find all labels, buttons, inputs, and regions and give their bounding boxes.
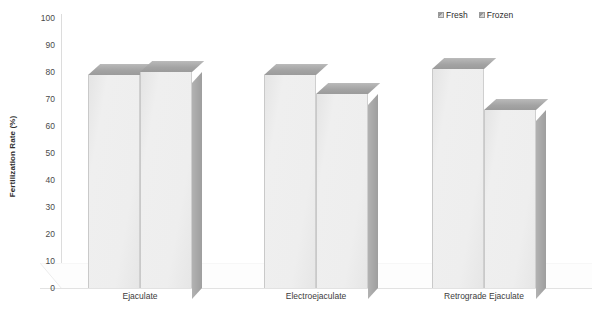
bar-groups [62,18,590,288]
bar-front-face [88,75,140,288]
y-axis-tick-label: 100 [41,14,55,23]
bar-front-face [264,75,316,288]
y-axis-tick-label: 90 [46,41,55,50]
bar-side-face [192,72,202,299]
y-axis-tick-label: 70 [46,95,55,104]
bar-fresh [432,69,484,288]
y-axis-tick-label: 60 [46,122,55,131]
y-axis-tick-label: 40 [46,176,55,185]
bar-side-face [536,110,546,299]
x-axis-category-labels: EjaculateElectroejaculateRetrograde Ejac… [62,291,590,311]
bar-front-face [484,110,536,288]
y-axis-tick-label: 0 [50,284,55,293]
bar-frozen [484,110,536,288]
y-axis-tick-label: 80 [46,68,55,77]
x-axis-category-label: Retrograde Ejaculate [444,291,524,301]
bar-front-face [316,94,368,288]
y-axis-tick-label: 30 [46,203,55,212]
bar-frozen [140,72,192,288]
bar-side-face [368,94,378,299]
bar-fresh [88,75,140,288]
y-axis-tick-label: 10 [46,257,55,266]
bar-fresh [264,75,316,288]
legend: FreshFrozen [438,11,513,20]
legend-item[interactable]: Frozen [479,11,513,20]
bar-top-face [264,64,328,75]
x-axis-category-label: Ejaculate [123,291,158,301]
legend-item-label: Frozen [487,11,513,20]
x-axis-baseline [40,288,592,289]
legend-item-label: Fresh [446,11,468,20]
bar-front-face [140,72,192,288]
y-axis-title-text: Fertilization Rate (%) [9,116,18,197]
legend-item[interactable]: Fresh [438,11,468,20]
bar-group [264,18,368,288]
bar-front-face [432,69,484,288]
bar-top-face [484,99,548,110]
plot-area: 0102030405060708090100 [62,18,590,288]
bar-top-face [316,83,380,94]
bar-chart: Fertilization Rate (%) 01020304050607080… [0,0,600,313]
bar-group [88,18,192,288]
legend-swatch-icon [479,12,485,18]
y-axis-tick-label: 50 [46,149,55,158]
x-axis-category-label: Electroejaculate [286,291,346,301]
y-axis-title: Fertilization Rate (%) [2,0,24,313]
bar-top-face [432,58,496,69]
bar-frozen [316,94,368,288]
y-axis-tick-label: 20 [46,230,55,239]
bar-top-face [140,61,204,72]
legend-swatch-icon [438,12,444,18]
bar-group [432,18,536,288]
